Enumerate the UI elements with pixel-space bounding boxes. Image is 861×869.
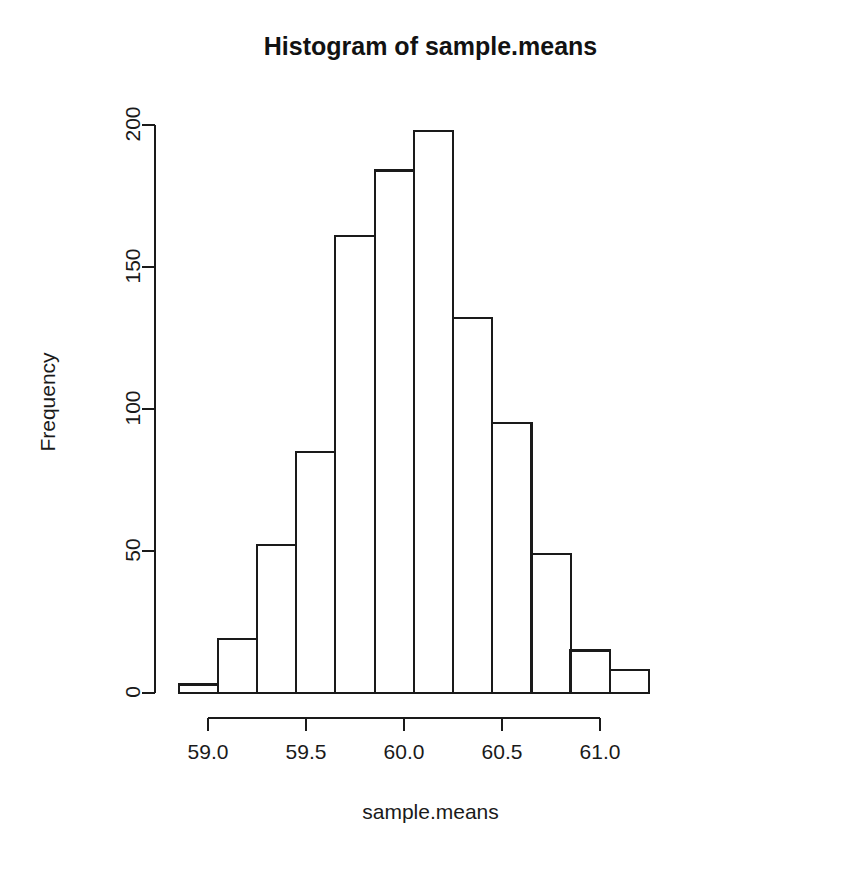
y-tick-label: 50 — [121, 515, 145, 585]
histogram-plot: Histogram of sample.means 0 50 100 150 2… — [0, 0, 861, 869]
y-axis-label: Frequency — [36, 312, 60, 492]
x-tick-label: 60.5 — [457, 740, 547, 764]
y-tick-label: 0 — [121, 657, 145, 727]
bars-group — [179, 131, 649, 693]
histogram-bar — [492, 423, 531, 693]
histogram-bar — [218, 639, 257, 693]
x-tick-label: 59.0 — [163, 740, 253, 764]
histogram-bar — [610, 670, 649, 693]
histogram-bar — [257, 545, 296, 693]
y-tick-label: 150 — [121, 231, 145, 301]
y-tick-label: 100 — [121, 373, 145, 443]
x-tick-label: 61.0 — [555, 740, 645, 764]
histogram-bar — [296, 452, 335, 693]
y-tick-label: 200 — [121, 89, 145, 159]
x-tick-label: 59.5 — [261, 740, 351, 764]
x-axis — [208, 718, 600, 731]
histogram-bar — [335, 236, 374, 693]
histogram-bar — [375, 170, 414, 693]
histogram-bar — [414, 131, 453, 693]
histogram-bar — [179, 684, 218, 693]
histogram-bar — [531, 554, 570, 693]
x-axis-label: sample.means — [0, 800, 861, 824]
histogram-bar — [453, 318, 492, 693]
x-tick-label: 60.0 — [359, 740, 449, 764]
histogram-bar — [571, 650, 610, 693]
